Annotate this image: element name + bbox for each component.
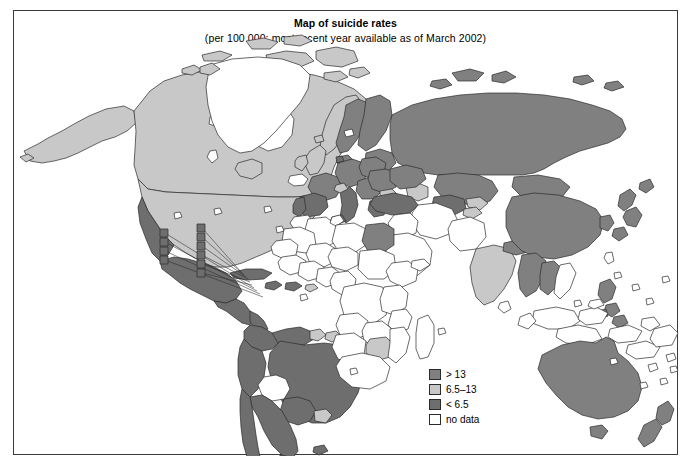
legend-swatch-medium [429, 384, 441, 395]
legend-item-nodata: no data [429, 412, 539, 427]
legend-item-low: < 6.5 [429, 397, 539, 412]
legend: > 13 6.5–13 < 6.5 no data [429, 367, 539, 427]
legend-label-medium: 6.5–13 [446, 384, 477, 395]
legend-item-high: > 13 [429, 367, 539, 382]
legend-item-medium: 6.5–13 [429, 382, 539, 397]
legend-label-nodata: no data [446, 414, 479, 425]
figure-root: Map of suicide rates (per 100 000; most … [0, 0, 691, 470]
map-frame: Map of suicide rates (per 100 000; most … [13, 10, 678, 455]
region-asia [470, 179, 678, 359]
legend-label-low: < 6.5 [446, 399, 469, 410]
legend-swatch-low [429, 399, 441, 410]
world-map: .c { stroke: #2b2b2b; stroke-width: 0.7;… [14, 11, 679, 456]
region-russia-central-asia [390, 69, 626, 219]
legend-label-high: > 13 [446, 369, 466, 380]
legend-swatch-high [429, 369, 441, 380]
legend-swatch-nodata [429, 414, 441, 425]
